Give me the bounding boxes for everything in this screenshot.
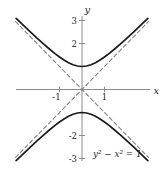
y-tick-label: -3 bbox=[69, 154, 77, 164]
hyperbola-plot: -1132-2-3xyy² − x² = 1 bbox=[0, 0, 164, 172]
y-tick-label: 2 bbox=[72, 39, 77, 49]
x-axis-label: x bbox=[154, 85, 160, 96]
x-tick-label: 1 bbox=[102, 92, 107, 102]
y-tick-label: 3 bbox=[72, 16, 77, 26]
figure-canvas: -1132-2-3xyy² − x² = 1 bbox=[0, 0, 164, 172]
y-tick-label: -2 bbox=[69, 131, 77, 141]
equation-label: y² − x² = 1 bbox=[92, 149, 142, 159]
x-tick-label: -1 bbox=[52, 92, 60, 102]
y-axis-label: y bbox=[84, 4, 91, 15]
